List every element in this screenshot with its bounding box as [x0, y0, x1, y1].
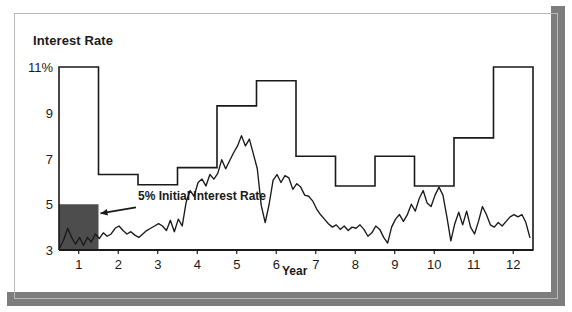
x-axis-tick-label: 12	[498, 257, 528, 272]
x-axis-tick-label: 1	[64, 257, 94, 272]
actual-interest-rate-line	[60, 136, 530, 248]
x-axis-tick-label: 11	[459, 257, 489, 272]
x-axis-tick-label: 5	[222, 257, 252, 272]
x-axis-tick-label: 3	[143, 257, 173, 272]
y-axis-tick-label: 9	[13, 105, 53, 120]
x-axis-tick-label: 8	[340, 257, 370, 272]
y-axis-tick-label: 3	[13, 243, 53, 258]
screenshot-root: Interest Rate 357911% 123456789101112 Ye…	[0, 0, 572, 312]
y-axis-tick-label: 11%	[13, 60, 53, 75]
y-axis-tick-label: 7	[13, 151, 53, 166]
initial-rate-annotation-label: 5% Initial Interest Rate	[138, 189, 266, 203]
x-axis-title: Year	[282, 264, 307, 278]
x-axis-tick-label: 9	[380, 257, 410, 272]
y-axis-tick-label: 5	[13, 197, 53, 212]
x-axis-tick-label: 10	[419, 257, 449, 272]
annotation-arrow-head	[101, 209, 108, 215]
x-axis-tick-label: 2	[103, 257, 133, 272]
initial-rate-shaded-block	[59, 204, 99, 250]
x-axis-tick-label: 4	[182, 257, 212, 272]
